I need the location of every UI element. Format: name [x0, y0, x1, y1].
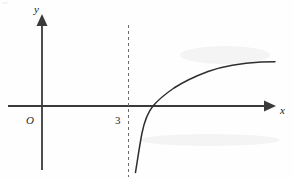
x-axis [8, 101, 276, 112]
y-axis [37, 14, 48, 170]
x-tick-label-3: 3 [115, 114, 121, 126]
y-axis-arrow-icon [37, 14, 48, 26]
origin-label: O [26, 114, 34, 126]
math-figure-logarithmic-curve: y x O 3 [0, 0, 293, 179]
figure-canvas: y x O 3 [0, 0, 293, 179]
log-curve [136, 62, 276, 173]
x-axis-arrow-icon [264, 101, 276, 112]
y-axis-label: y [33, 3, 39, 15]
x-axis-label: x [279, 104, 285, 116]
